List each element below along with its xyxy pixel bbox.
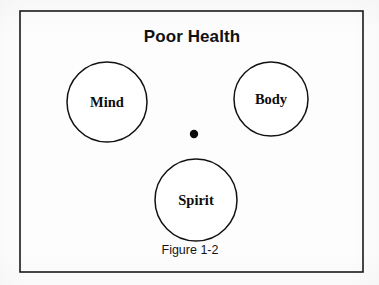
figure-caption: Figure 1-2 [162,243,219,257]
center-dot-icon [190,130,198,138]
poor-health-figure: Poor Health Mind Body Spirit Figure 1-2 [0,0,379,285]
body-label: Body [255,91,288,107]
node-group-spirit[interactable]: Spirit [155,159,237,241]
node-group-body[interactable]: Body [234,62,308,136]
page-title: Poor Health [144,27,241,46]
mind-label: Mind [90,94,124,110]
figure-canvas: Poor Health Mind Body Spirit Figure 1-2 [0,0,379,285]
node-group-mind[interactable]: Mind [67,62,147,142]
spirit-label: Spirit [178,192,214,208]
